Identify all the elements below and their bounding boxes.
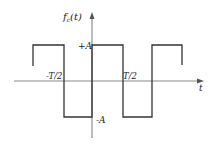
x-axis-label: t (199, 83, 203, 93)
tick-label-half-period: T/2 (123, 71, 137, 81)
y-axis-arrow-icon (90, 12, 95, 19)
tick-label-neg-half-period: -T/2 (46, 71, 63, 81)
square-wave-diagram: fc(t) +A -A -T/2 T/2 t (0, 0, 216, 146)
y-axis-label: fc(t) (62, 11, 82, 23)
low-level-label: -A (96, 115, 106, 125)
high-level-label: +A (78, 41, 93, 51)
